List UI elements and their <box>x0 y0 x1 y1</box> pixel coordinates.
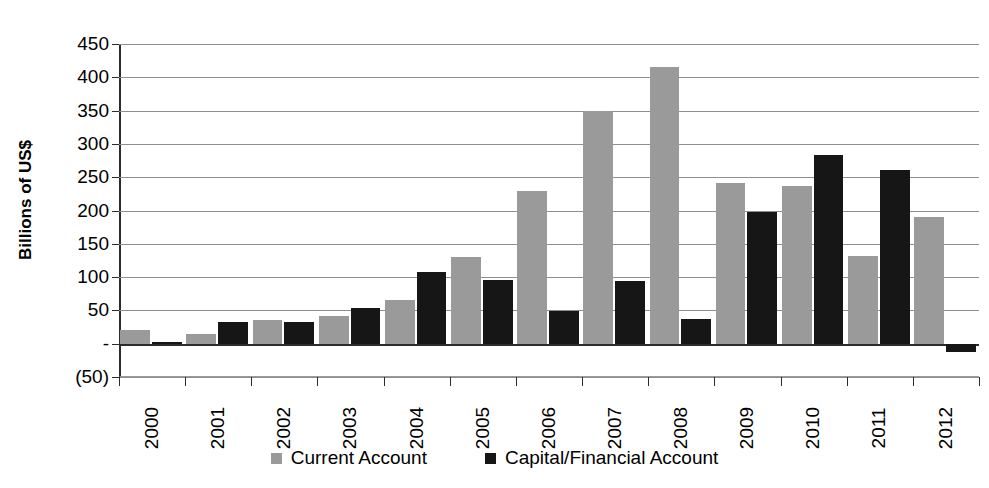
y-tick-label: 400 <box>77 66 109 88</box>
x-axis-label: 2007 <box>595 395 635 451</box>
y-tick-mark <box>112 77 119 78</box>
x-axis-label: 2002 <box>264 395 304 451</box>
x-axis-label: 2008 <box>661 395 701 451</box>
bar-current-account-2000 <box>120 330 150 343</box>
x-axis-label: 2005 <box>463 395 503 451</box>
bar-capital-financial-account-2011 <box>880 170 910 344</box>
bar-current-account-2004 <box>385 300 415 344</box>
bar-capital-financial-account-2008 <box>681 319 711 344</box>
x-axis-label-text: 2010 <box>803 407 825 449</box>
x-tick-mark <box>384 377 385 386</box>
y-axis-title: Billions of US$ <box>6 0 46 400</box>
y-tick-mark <box>112 377 119 378</box>
chart-legend: Current AccountCapital/Financial Account <box>0 447 989 469</box>
y-tick-label: - <box>103 333 109 355</box>
bar-current-account-2003 <box>319 316 349 343</box>
y-tick-mark <box>112 344 119 345</box>
bar-current-account-2005 <box>451 257 481 344</box>
legend-swatch-icon <box>485 453 496 464</box>
y-tick-mark <box>112 244 119 245</box>
x-axis-label: 2011 <box>860 395 900 451</box>
x-axis-label-text: 2009 <box>736 407 758 449</box>
bar-group <box>648 44 714 377</box>
y-tick-mark <box>112 277 119 278</box>
x-tick-mark <box>582 377 583 386</box>
y-tick-mark <box>112 111 119 112</box>
bar-current-account-2012 <box>914 217 944 344</box>
y-tick-label: 200 <box>77 200 109 222</box>
bar-capital-financial-account-2009 <box>747 212 777 343</box>
bars-layer <box>119 44 979 377</box>
x-axis-label-text: 2005 <box>472 407 494 449</box>
bar-capital-financial-account-2005 <box>483 280 513 343</box>
bar-group <box>781 44 847 377</box>
x-axis-label-text: 2000 <box>141 407 163 449</box>
x-axis-label: 2004 <box>397 395 437 451</box>
x-axis-label: 2003 <box>331 395 371 451</box>
y-tick-label: 300 <box>77 133 109 155</box>
x-axis-label-text: 2006 <box>538 407 560 449</box>
y-tick-label: 450 <box>77 33 109 55</box>
bar-current-account-2009 <box>716 183 746 344</box>
x-axis-label: 2006 <box>529 395 569 451</box>
x-tick-mark <box>714 377 715 386</box>
bar-current-account-2010 <box>782 186 812 344</box>
bar-group <box>317 44 383 377</box>
x-axis-label-text: 2002 <box>273 407 295 449</box>
legend-item[interactable]: Current Account <box>271 447 427 469</box>
bar-capital-financial-account-2001 <box>218 322 248 344</box>
bar-capital-financial-account-2010 <box>814 155 844 344</box>
x-axis-label: 2001 <box>198 395 238 451</box>
y-tick-label: 350 <box>77 100 109 122</box>
y-tick-mark <box>112 144 119 145</box>
x-axis-label-text: 2008 <box>670 407 692 449</box>
x-axis-label-text: 2011 <box>869 408 891 449</box>
x-axis-label-text: 2003 <box>340 407 362 449</box>
legend-item[interactable]: Capital/Financial Account <box>485 447 718 469</box>
gridline <box>119 377 979 378</box>
bar-current-account-2008 <box>650 67 680 344</box>
bar-current-account-2002 <box>253 320 283 343</box>
x-tick-mark <box>450 377 451 386</box>
plot-area: 45040035030025020015010050-(50) <box>119 44 979 377</box>
bar-group <box>185 44 251 377</box>
bar-capital-financial-account-2007 <box>615 281 645 344</box>
x-axis-label: 2012 <box>926 395 966 451</box>
y-tick-label: 250 <box>77 166 109 188</box>
x-axis-label-text: 2004 <box>406 407 428 449</box>
x-tick-mark <box>913 377 914 386</box>
x-axis-label: 2010 <box>794 395 834 451</box>
bar-capital-financial-account-2000 <box>152 342 182 343</box>
x-axis-label-text: 2001 <box>207 407 229 449</box>
x-axis-label-text: 2012 <box>935 407 957 449</box>
y-tick-mark <box>112 211 119 212</box>
bar-group <box>450 44 516 377</box>
bar-group <box>516 44 582 377</box>
bar-current-account-2001 <box>186 334 216 344</box>
x-axis-label: 2000 <box>132 395 172 451</box>
x-axis-label-text: 2007 <box>604 407 626 449</box>
bar-group <box>714 44 780 377</box>
x-tick-mark <box>648 377 649 386</box>
bar-group <box>384 44 450 377</box>
legend-swatch-icon <box>271 453 282 464</box>
bar-group <box>251 44 317 377</box>
bar-chart-figure: Billions of US$ 450400350300250200150100… <box>0 0 989 488</box>
y-tick-label: 100 <box>77 266 109 288</box>
x-tick-mark <box>119 377 120 386</box>
x-tick-mark <box>317 377 318 386</box>
y-tick-mark <box>112 44 119 45</box>
y-tick-label: 50 <box>88 299 109 321</box>
bar-capital-financial-account-2012 <box>946 344 976 353</box>
x-tick-mark <box>251 377 252 386</box>
bar-group <box>913 44 979 377</box>
y-tick-label: 150 <box>77 233 109 255</box>
y-axis-title-text: Billions of US$ <box>16 140 36 260</box>
y-tick-label: (50) <box>75 366 109 388</box>
bar-current-account-2007 <box>583 111 613 344</box>
bar-group <box>847 44 913 377</box>
legend-label: Capital/Financial Account <box>505 447 718 469</box>
bar-current-account-2006 <box>517 191 547 344</box>
bar-current-account-2011 <box>848 256 878 344</box>
bar-capital-financial-account-2002 <box>284 322 314 343</box>
